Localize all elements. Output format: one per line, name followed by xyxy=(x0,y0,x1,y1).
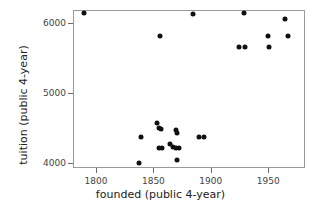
x-tick-mark xyxy=(211,168,212,173)
y-tick-mark xyxy=(68,93,73,94)
data-point xyxy=(201,135,206,140)
x-tick-label: 1850 xyxy=(142,176,165,186)
y-tick-label: 6000 xyxy=(26,18,66,28)
x-tick-mark xyxy=(96,168,97,173)
data-point xyxy=(159,126,164,131)
data-point xyxy=(170,144,175,149)
x-tick-label: 1800 xyxy=(85,176,108,186)
y-tick-label: 5000 xyxy=(26,88,66,98)
data-point xyxy=(267,44,272,49)
data-point xyxy=(82,11,87,16)
y-tick-mark xyxy=(68,23,73,24)
data-point xyxy=(191,11,196,16)
data-point xyxy=(175,157,180,162)
y-tick-mark xyxy=(68,163,73,164)
data-point xyxy=(175,131,180,136)
x-tick-label: 1900 xyxy=(199,176,222,186)
data-point xyxy=(158,33,163,38)
data-point xyxy=(176,145,181,150)
x-axis-label: founded (public 4-year) xyxy=(0,188,321,201)
data-point xyxy=(237,44,242,49)
y-tick-label: 4000 xyxy=(26,158,66,168)
plot-area xyxy=(73,10,305,168)
data-point xyxy=(266,33,271,38)
data-point xyxy=(138,135,143,140)
scatter-chart: 400050006000 1800185019001950 founded (p… xyxy=(0,0,321,210)
x-tick-label: 1950 xyxy=(257,176,280,186)
data-point xyxy=(174,128,179,133)
data-point xyxy=(156,145,161,150)
data-point xyxy=(160,145,165,150)
x-tick-mark xyxy=(268,168,269,173)
data-point xyxy=(154,120,159,125)
y-axis-label: tuition (public 4-year) xyxy=(17,20,30,190)
data-point xyxy=(283,17,288,22)
data-point xyxy=(285,33,290,38)
data-point xyxy=(197,135,202,140)
x-tick-mark xyxy=(153,168,154,173)
data-point xyxy=(174,145,179,150)
data-point xyxy=(156,126,161,131)
data-points-layer xyxy=(74,11,304,167)
data-point xyxy=(243,44,248,49)
data-point xyxy=(137,161,142,166)
data-point xyxy=(168,141,173,146)
data-point xyxy=(241,11,246,16)
